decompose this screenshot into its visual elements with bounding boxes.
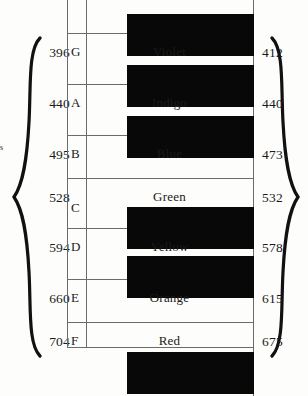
left-value-c: 528 xyxy=(28,190,70,206)
table-border-left xyxy=(67,0,68,348)
right-value-c: 532 xyxy=(262,190,304,206)
note-color-correspondence-figure: s 396 440 495 528 594 660 704 412 440 47… xyxy=(0,0,308,396)
right-value-e: 615 xyxy=(262,291,304,307)
right-value-f: 675 xyxy=(262,334,304,350)
color-name-blue: Blue xyxy=(86,146,253,161)
right-value-g: 412 xyxy=(262,45,304,61)
left-value-b: 495 xyxy=(28,147,70,163)
right-value-b: 473 xyxy=(262,147,304,163)
note-letter-b: B xyxy=(71,146,87,161)
note-letter-g: G xyxy=(71,44,87,59)
left-value-column: 396 440 495 528 594 660 704 xyxy=(28,0,70,396)
color-name-yellow: Yellow xyxy=(86,239,253,254)
color-name-orange: Orange xyxy=(86,290,253,305)
right-value-d: 578 xyxy=(262,240,304,256)
page-edge-glyph: s xyxy=(0,143,5,152)
color-name-violet: Violet xyxy=(86,44,253,59)
left-value-a: 440 xyxy=(28,96,70,112)
note-letter-f: F xyxy=(71,333,87,348)
right-value-a: 440 xyxy=(262,96,304,112)
left-value-d: 594 xyxy=(28,240,70,256)
note-letter-d: D xyxy=(71,239,87,254)
right-value-column: 412 440 473 532 578 615 675 xyxy=(262,0,304,396)
color-name-red: Red xyxy=(86,333,253,348)
table-border-right xyxy=(253,0,254,396)
color-name-green: Green xyxy=(86,189,253,204)
note-letter-e: E xyxy=(71,290,87,305)
black-key-6 xyxy=(127,352,254,394)
white-key-divider-4 xyxy=(67,178,254,179)
note-letter-c: C xyxy=(71,200,87,215)
white-key-divider-7 xyxy=(67,322,254,323)
left-value-g: 396 xyxy=(28,45,70,61)
left-value-e: 660 xyxy=(28,291,70,307)
keyboard-table: G Violet A Indigo B Blue C Green D Yello… xyxy=(67,0,254,396)
note-letter-a: A xyxy=(71,95,87,110)
color-name-indigo: Indigo xyxy=(86,95,253,110)
left-value-f: 704 xyxy=(28,334,70,350)
